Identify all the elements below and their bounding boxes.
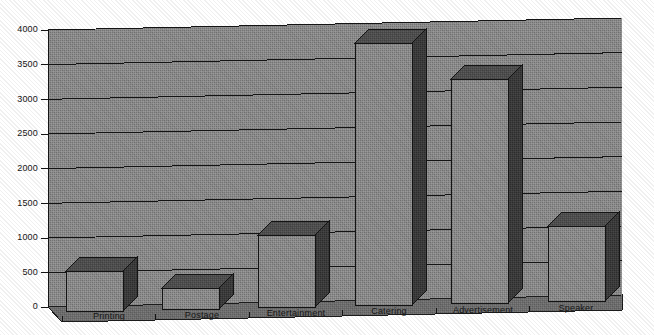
- y-tick-label: 1500: [17, 199, 38, 208]
- bar-speaker: [548, 212, 619, 301]
- x-tick-label-advertisement: Advertisement: [436, 305, 530, 315]
- bar-chart: 4000 3500 3000 2500 2000 1500 1000 500 0…: [0, 0, 654, 335]
- x-tick-label-entertainment: Entertainment: [249, 308, 343, 318]
- chart-plot-area: [0, 0, 654, 335]
- y-axis-labels: 4000 3500 3000 2500 2000 1500 1000 500 0: [0, 0, 38, 335]
- y-tick-label: 2500: [17, 129, 38, 138]
- y-tick-label: 1000: [17, 233, 38, 242]
- bar-advertisement: [451, 65, 522, 303]
- x-tick-label-printing: Printing: [62, 311, 156, 321]
- y-axis-ticks: [41, 30, 48, 307]
- y-tick-label: 500: [22, 268, 38, 277]
- bar-printing: [66, 257, 137, 311]
- y-tick-label: 2000: [17, 164, 38, 173]
- y-tick-label: 3500: [17, 60, 38, 69]
- bar-catering: [355, 29, 426, 305]
- y-tick-label: 0: [33, 302, 38, 311]
- x-tick-label-postage: Postage: [155, 310, 249, 320]
- bar-entertainment: [258, 221, 329, 307]
- x-tick-label-catering: Catering: [342, 306, 436, 316]
- y-tick-label: 4000: [17, 25, 38, 34]
- bar-postage: [162, 274, 233, 309]
- y-tick-label: 3000: [17, 95, 38, 104]
- x-tick-label-speaker: Speaker: [529, 303, 623, 313]
